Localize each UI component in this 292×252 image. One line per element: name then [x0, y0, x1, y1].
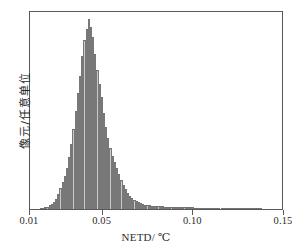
histogram-bars [30, 12, 282, 209]
x-axis-tick-label: 0.10 [183, 215, 202, 226]
x-axis-tick-label: 0.15 [274, 215, 292, 226]
x-axis-label: NETD/ ℃ [0, 231, 292, 244]
x-axis-tick-label: 0.05 [92, 215, 111, 226]
x-axis-tick-label: 0.01 [20, 215, 39, 226]
y-axis-label: 像元/任意单位 [16, 11, 36, 210]
histogram-bar [260, 208, 262, 209]
histogram-figure: 0.010.050.100.15 NETD/ ℃ 像元/任意单位 [0, 0, 292, 252]
plot-area [29, 11, 283, 210]
